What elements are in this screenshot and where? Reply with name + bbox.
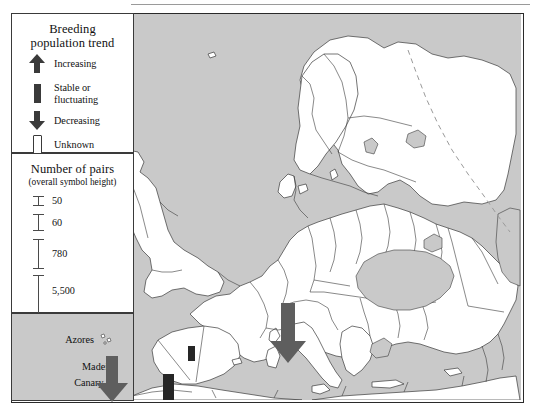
legend-item-unknown: Unknown [20,135,94,154]
legend-item-decreasing: Decreasing [20,111,100,130]
scale-ibeam-60 [33,214,44,231]
legend-pairs-title: Number of pairs [12,154,133,176]
azores-islets [98,332,118,346]
legend-label-decreasing: Decreasing [54,115,100,127]
symbol-italy [270,303,306,363]
scale-ibeam-50 [33,196,44,206]
scale-label-50: 50 [52,195,62,206]
page-rule [131,4,530,5]
legend-pairs-subtitle: (overall symbol height) [12,177,133,188]
scale-label-5500: 5,500 [52,285,75,296]
inset-label-azores: Azores [18,334,94,345]
symbol-canary [96,356,128,402]
bar-icon [20,84,54,103]
legend-label-stable: Stable or [54,82,98,94]
figure-root: Breeding population trend Increasing Sta… [0,0,534,412]
legend-label-increasing: Increasing [54,58,96,70]
legend-label-stable-2: fluctuating [54,94,98,106]
legend-number-of-pairs: Number of pairs (overall symbol height) … [11,153,134,313]
symbol-spain-central [188,346,195,361]
legend-trend-title-line1: Breeding [12,14,133,36]
empty-rectangle-icon [20,135,54,154]
legend-island-insets: Azores Madeira Canary Is. [11,313,134,401]
legend-label-unknown: Unknown [54,139,94,151]
scale-label-780: 780 [52,248,67,259]
down-arrow-icon [20,111,54,130]
legend-item-stable: Stable or fluctuating [20,82,98,105]
symbol-gibraltar [163,374,174,400]
up-arrow-icon [20,54,54,73]
legend-trend-title-line2: population trend [12,36,133,50]
scale-label-60: 60 [52,217,62,228]
legend-item-increasing: Increasing [20,54,96,73]
legend-breeding-trend: Breeding population trend Increasing Sta… [11,13,134,153]
scale-ibeam-5500 [33,248,44,302]
